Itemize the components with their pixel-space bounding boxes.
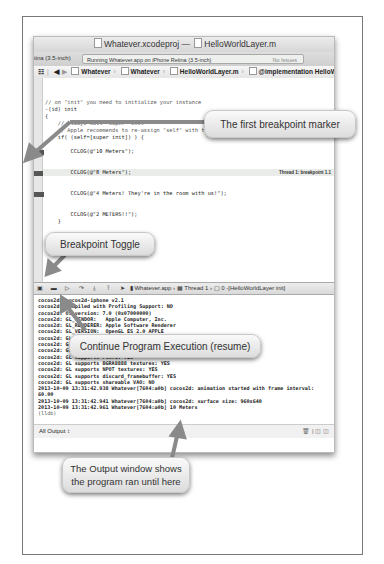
issues-text[interactable]: No Issues — [273, 55, 297, 65]
code-line: } — [45, 218, 284, 225]
code-line — [45, 267, 284, 274]
callout-first-breakpoint: The first breakpoint marker — [204, 110, 356, 138]
project-file-icon — [94, 38, 102, 48]
code-line: CCLOG(@"8 Meters"); — [45, 169, 284, 176]
folder-icon — [121, 67, 129, 75]
code-line — [45, 260, 284, 267]
project-icon — [71, 67, 79, 75]
callout-breakpoint-toggle: Breakpoint Toggle — [45, 232, 155, 256]
debug-app[interactable]: Whatever.app — [134, 285, 171, 291]
status-text: Running Whatever.app on iPhone Retina (3… — [87, 57, 211, 63]
file-icon — [170, 67, 178, 75]
jump-item-file[interactable]: HelloWorldLayer.m — [180, 68, 239, 75]
code-line: CCLOG(@"2 METERS!!"); — [45, 211, 284, 218]
step-over-icon[interactable]: ↷ — [75, 283, 87, 294]
code-line — [45, 225, 284, 232]
code-line — [45, 274, 284, 281]
title-file: HelloWorldLayer.m — [204, 39, 276, 49]
output-selector[interactable]: All Output ↕ — [39, 425, 70, 438]
app-icon: ▮ — [130, 285, 133, 291]
code-line — [45, 141, 284, 148]
title-bar: Whatever.xcodeproj — HelloWorldLayer.m — [34, 37, 334, 52]
breakpoint-toggle-icon[interactable]: ▬ — [48, 283, 60, 294]
step-into-icon[interactable]: ⤓ — [89, 283, 101, 294]
scheme-selector[interactable]: tina (3.5-inch) — [34, 55, 71, 61]
frame-icon: ▢ — [214, 285, 220, 291]
console-line: 2013-10-09 13:31:42.938 Whatever[7604:a0… — [38, 385, 330, 391]
console-output[interactable]: cocos2d: cocos2d-iphone v2.1cocos2d: com… — [34, 295, 334, 438]
title-separator: — — [181, 39, 190, 49]
lldb-prompt[interactable]: (lldb) — [38, 410, 330, 416]
callout-output-window: The Output window shows the program ran … — [62, 457, 190, 493]
thread-breakpoint-label: Thread 1: breakpoint 1.1 — [279, 169, 331, 176]
code-line — [45, 204, 284, 211]
code-line — [45, 162, 284, 169]
code-line — [45, 197, 284, 204]
code-line: CCLOG(@"4 Meters! They're in the room wi… — [45, 190, 284, 197]
back-icon[interactable]: ◀ — [54, 68, 59, 75]
jump-item-group[interactable]: Whatever — [131, 68, 160, 75]
console-footer: All Output ↕ 🗑 | ◫ ◫ — [34, 424, 334, 438]
jump-item-symbol[interactable]: @implementation HelloWorldLayer — [259, 68, 335, 75]
location-icon[interactable]: ➤ — [116, 283, 128, 294]
implementation-icon — [249, 67, 257, 75]
step-out-icon[interactable]: ⤒ — [102, 283, 114, 294]
debug-thread[interactable]: Thread 1 — [184, 285, 208, 291]
console-footer-icons[interactable]: 🗑 | ◫ ◫ — [302, 425, 329, 438]
jump-item-project[interactable]: Whatever — [81, 68, 110, 75]
activity-status: Running Whatever.app on iPhone Retina (3… — [82, 54, 304, 64]
breakpoint-marker-1[interactable] — [34, 150, 44, 155]
hide-debug-area-icon[interactable]: ▣ — [34, 283, 46, 294]
debug-bar: ▣ ▬ ▷ ↷ ⤓ ⤒ ➤ ▮ Whatever.app › ▦ Thread … — [34, 282, 334, 295]
continue-icon[interactable]: ▷ — [61, 283, 73, 294]
breakpoint-marker-3[interactable] — [34, 192, 44, 197]
debug-frame[interactable]: 0 -[HelloWorldLayer init] — [221, 285, 285, 291]
title-project: Whatever.xcodeproj — [104, 39, 179, 49]
related-items-icon[interactable]: ☷ — [38, 68, 44, 75]
thread-icon: ▦ — [177, 285, 183, 291]
toolbar: tina (3.5-inch) Running Whatever.app on … — [34, 52, 334, 66]
source-file-icon — [194, 38, 202, 48]
code-line — [45, 155, 284, 162]
code-line: // on "init" you need to initialize your… — [45, 99, 284, 106]
code-line — [45, 176, 284, 183]
gutter[interactable] — [34, 78, 43, 282]
code-line: CCLOG(@"10 Meters"); — [45, 148, 284, 155]
code-line — [45, 183, 284, 190]
callout-continue: Continue Program Execution (resume) — [69, 334, 261, 358]
